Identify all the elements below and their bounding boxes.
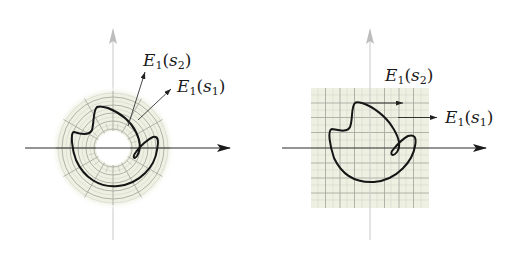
label-var: E xyxy=(445,107,457,127)
label-arg: s xyxy=(471,107,480,127)
label-var: E xyxy=(143,50,155,70)
cartesian-panel xyxy=(282,28,486,240)
label-E1-s2-right: E1(s2) xyxy=(385,67,433,84)
label-arg-sub: 1 xyxy=(480,116,487,129)
label-paren-close: ) xyxy=(427,65,434,85)
label-paren-close: ) xyxy=(185,50,192,70)
label-var: E xyxy=(385,65,397,85)
label-arg-sub: 1 xyxy=(212,85,219,98)
label-paren-close: ) xyxy=(219,76,226,96)
label-E1-s2-left: E1(s2) xyxy=(143,52,191,69)
label-arg-sub: 2 xyxy=(420,74,427,87)
label-paren-close: ) xyxy=(487,107,494,127)
polar-panel xyxy=(25,28,230,240)
label-arg: s xyxy=(169,50,178,70)
label-E1-s1-right: E1(s1) xyxy=(445,109,493,126)
label-arg: s xyxy=(203,76,212,96)
label-arg: s xyxy=(411,65,420,85)
label-arg-sub: 2 xyxy=(178,59,185,72)
label-var: E xyxy=(177,76,189,96)
label-E1-s1-left: E1(s1) xyxy=(177,78,225,95)
